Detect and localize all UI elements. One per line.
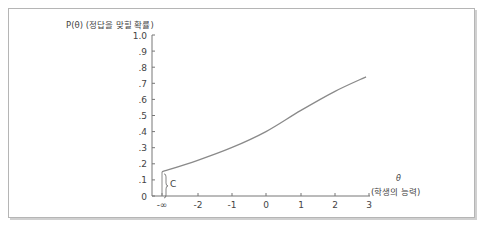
x-tick-label: 1 — [298, 200, 304, 210]
y-tick-label: .1 — [138, 175, 147, 185]
y-tick-label: 1.0 — [133, 31, 148, 41]
x-tick-label: -2 — [194, 200, 203, 210]
y-tick-label: .4 — [138, 127, 147, 137]
y-tick-label: .8 — [138, 63, 147, 73]
y-tick-label: .3 — [138, 143, 147, 153]
c-label: C — [170, 179, 176, 189]
c-annotation: C — [162, 172, 176, 198]
axes — [152, 35, 370, 196]
x-tick-label: 3 — [366, 200, 372, 210]
brace-icon — [164, 174, 168, 198]
y-tick-label: .7 — [138, 79, 147, 89]
x-tick-label: -1 — [228, 200, 237, 210]
y-tick-label: .6 — [138, 95, 147, 105]
x-tick-label: 0 — [263, 200, 269, 210]
x-tick-label: -∞ — [157, 200, 168, 210]
x-tick-label: 2 — [332, 200, 338, 210]
y-tick-label: 0 — [141, 192, 147, 202]
y-tick-label: .9 — [138, 47, 147, 57]
y-tick-label: .2 — [138, 159, 147, 169]
icc-curve — [162, 77, 366, 172]
chart-plot: 0.1.2.3.4.5.6.7.8.91.0 -∞-2-10123 C — [0, 0, 482, 226]
y-tick-label: .5 — [138, 111, 147, 121]
